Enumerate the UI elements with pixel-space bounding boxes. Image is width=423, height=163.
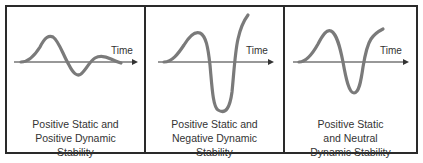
panel-negative-dynamic-stability: Time Positive Static and Negative Dynami… xyxy=(146,7,285,152)
caption-line: Positive Dynamic xyxy=(7,131,144,145)
caption-line: Positive Static and xyxy=(146,117,283,131)
axis-arrow-icon xyxy=(132,59,138,65)
divergent-oscillation-curve xyxy=(164,15,248,111)
time-axis-label: Time xyxy=(246,45,268,56)
neutral-oscillation-curve xyxy=(299,29,383,93)
damped-oscillation-curve xyxy=(21,36,121,75)
caption-line: Stability xyxy=(146,145,283,159)
caption-line: Positive Static xyxy=(285,117,416,131)
axis-arrow-icon xyxy=(268,59,274,65)
caption-line: Negative Dynamic xyxy=(146,131,283,145)
panel-neutral-dynamic-stability: Time Positive Static and Neutral Dynamic… xyxy=(285,7,416,152)
caption-line: Positive Static and xyxy=(7,117,144,131)
time-axis-label: Time xyxy=(111,45,133,56)
panel-positive-dynamic-stability: Time Positive Static and Positive Dynami… xyxy=(7,7,146,152)
diagram-frame: Time Positive Static and Positive Dynami… xyxy=(5,5,418,154)
panel-caption: Positive Static and Negative Dynamic Sta… xyxy=(146,117,283,159)
panel-caption: Positive Static and Positive Dynamic Sta… xyxy=(7,117,144,159)
panel-caption: Positive Static and Neutral Dynamic Stab… xyxy=(285,117,416,159)
time-axis-label: Time xyxy=(380,45,402,56)
caption-line: Stability xyxy=(7,145,144,159)
axis-arrow-icon xyxy=(403,59,409,65)
caption-line: and Neutral xyxy=(285,131,416,145)
caption-line: Dynamic Stability xyxy=(285,145,416,159)
